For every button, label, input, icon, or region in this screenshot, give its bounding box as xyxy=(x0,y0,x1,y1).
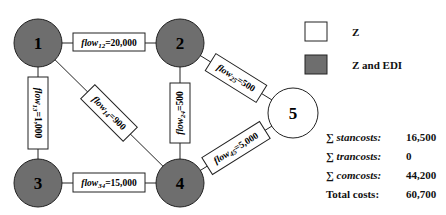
summary-stancosts: ∑ stancosts: 16,500 xyxy=(326,131,446,147)
summary-total: Total costs: 60,700 xyxy=(326,188,446,204)
summary-label: comcosts: xyxy=(337,169,382,181)
svg-text:1: 1 xyxy=(34,34,43,53)
legend-label-z-edi: Z and EDI xyxy=(352,59,402,71)
flow-label-24: flow24=500 xyxy=(170,83,190,143)
summary-value: 0 xyxy=(406,150,412,162)
svg-text:4: 4 xyxy=(176,174,185,193)
flow-label-34: flow34=15,000 xyxy=(73,173,145,192)
node-2: 2 xyxy=(156,19,204,67)
svg-text:5: 5 xyxy=(289,104,298,123)
sigma-icon: ∑ xyxy=(326,150,337,162)
flow-label-12: flow12=20,000 xyxy=(73,33,145,51)
node-4: 4 xyxy=(156,159,204,207)
flow-label-45: flow45=5,000 xyxy=(202,122,270,175)
summary-value: 44,200 xyxy=(406,169,436,181)
node-3: 3 xyxy=(14,159,62,207)
sigma-icon: ∑ xyxy=(326,169,337,181)
sigma-icon: ∑ xyxy=(326,131,337,143)
legend-swatch-z-edi xyxy=(305,55,327,74)
flow-label-14: flow14=900 xyxy=(81,85,138,142)
edges xyxy=(38,43,293,183)
summary-value: 16,500 xyxy=(406,131,436,143)
legend-swatch-z xyxy=(305,22,327,41)
flow-label-25: flow25=500 xyxy=(205,54,266,103)
node-5: 5 xyxy=(268,88,318,138)
summary-trancosts: ∑ trancosts: 0 xyxy=(326,150,446,166)
summary-label: stancosts: xyxy=(337,131,382,143)
svg-text:3: 3 xyxy=(34,174,43,193)
summary-value: 60,700 xyxy=(406,188,436,200)
legend-label-z: Z xyxy=(352,26,359,38)
summary-comcosts: ∑ comcosts: 44,200 xyxy=(326,169,446,185)
summary-label: trancosts: xyxy=(337,150,382,162)
svg-text:2: 2 xyxy=(176,34,185,53)
node-1: 1 xyxy=(14,19,62,67)
summary-label: Total costs: xyxy=(326,188,379,200)
flow-label-13: flow13=1,000 xyxy=(28,77,48,149)
